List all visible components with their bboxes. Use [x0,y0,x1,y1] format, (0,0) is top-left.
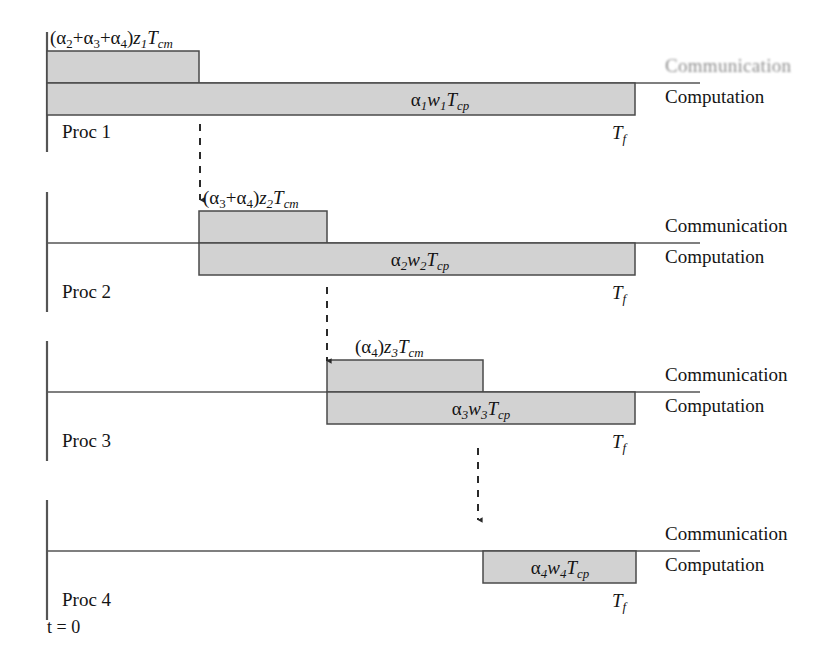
row-1-communication-bar [47,51,199,83]
row-2-finish-time-label: Tf [612,283,626,302]
row-4-computation-caption: α4w4Tcp [531,557,589,579]
row-2-proc-label: Proc 2 [62,282,111,301]
row-4-finish-time-label: Tf [612,591,626,610]
row-1-finish-time-label: Tf [612,123,626,142]
row-proc-4 [47,500,700,620]
row-2-computation-caption: α2w2Tcp [391,249,449,271]
handoff-arrows [200,124,478,520]
row-1-proc-label: Proc 1 [62,122,111,141]
row-4-computation-side-label: Computation [665,555,764,574]
row-2-computation-side-label: Computation [665,247,764,266]
row-3-computation-caption: α3w3Tcp [452,398,510,420]
row-1-communication-side-label: Communication [665,56,791,75]
timing-diagram-figure: (α2+α3+α4)z1Tcm α1w1Tcp Proc 1 Tf Commun… [0,0,832,663]
row-2-communication-caption: (α3+α4)z2Tcm [203,188,299,207]
row-2-communication-side-label: Communication [665,216,787,235]
row-4-proc-label: Proc 4 [62,590,111,609]
row-1-computation-caption: α1w1Tcp [411,89,469,111]
row-1-computation-side-label: Computation [665,87,764,106]
row-3-finish-time-label: Tf [612,432,626,451]
row-proc-2 [47,192,700,312]
row-3-computation-side-label: Computation [665,396,764,415]
row-3-communication-caption: (α4)z3Tcm [355,337,424,356]
row-2-communication-bar [199,211,327,243]
row-1-computation-bar [47,83,635,115]
row-4-communication-side-label: Communication [665,524,787,543]
row-3-communication-bar [327,360,483,392]
row-3-proc-label: Proc 3 [62,431,111,450]
time-origin-label: t = 0 [47,618,80,636]
row-1-communication-caption: (α2+α3+α4)z1Tcm [50,28,173,47]
row-3-communication-side-label: Communication [665,365,787,384]
